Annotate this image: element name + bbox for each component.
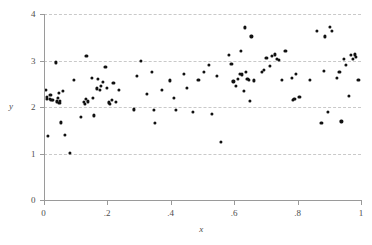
- data-point: [263, 68, 266, 71]
- y-tick-label: 4: [8, 9, 36, 19]
- data-point: [93, 114, 96, 117]
- data-point: [112, 81, 115, 84]
- data-point: [57, 91, 60, 94]
- data-point: [79, 115, 82, 118]
- data-point: [244, 70, 247, 73]
- data-point: [298, 95, 301, 98]
- data-point: [215, 75, 218, 78]
- data-point: [114, 100, 117, 103]
- y-axis-line: [44, 14, 45, 201]
- x-tick-label: .8: [294, 208, 301, 218]
- data-point: [105, 86, 108, 89]
- data-point: [197, 78, 200, 81]
- x-tick-label: 1: [359, 208, 364, 218]
- gridline-y: [44, 154, 362, 155]
- data-point: [330, 29, 333, 32]
- x-tick-mark: [171, 201, 172, 205]
- data-point: [290, 77, 293, 80]
- x-tick-label: .4: [167, 208, 174, 218]
- plot-area: [44, 14, 362, 200]
- data-point: [340, 120, 343, 123]
- data-point: [117, 88, 120, 91]
- data-point: [54, 61, 57, 64]
- data-point: [228, 53, 231, 56]
- data-point: [349, 53, 352, 56]
- data-point: [98, 88, 101, 91]
- x-tick-mark: [107, 201, 108, 205]
- data-point: [328, 25, 331, 28]
- x-tick-label: .6: [231, 208, 238, 218]
- data-point: [175, 108, 178, 111]
- data-point: [284, 49, 287, 52]
- data-point: [150, 70, 153, 73]
- data-point: [236, 78, 239, 81]
- data-point: [338, 70, 341, 73]
- data-point: [232, 80, 235, 83]
- data-point: [241, 73, 244, 76]
- data-point: [72, 78, 75, 81]
- y-tick-label: 1: [8, 149, 36, 159]
- data-point: [185, 86, 188, 89]
- data-point: [323, 35, 326, 38]
- data-point: [281, 78, 284, 81]
- data-point: [357, 78, 360, 81]
- data-point: [248, 99, 251, 102]
- data-point: [152, 108, 155, 111]
- x-tick-mark: [44, 201, 45, 205]
- data-point: [247, 78, 250, 81]
- y-tick-mark: [40, 14, 44, 15]
- data-point: [320, 122, 323, 125]
- y-tick-label: 0: [8, 195, 36, 205]
- data-point: [265, 57, 268, 60]
- x-axis-line: [44, 200, 363, 201]
- data-point: [85, 54, 88, 57]
- gridline-y: [44, 14, 362, 15]
- x-axis-title: x: [199, 224, 203, 234]
- data-point: [86, 100, 89, 103]
- data-point: [234, 84, 237, 87]
- y-tick-mark: [40, 107, 44, 108]
- data-point: [51, 98, 54, 101]
- data-point: [230, 63, 233, 66]
- data-point: [344, 64, 347, 67]
- y-tick-mark: [40, 61, 44, 62]
- data-point: [293, 98, 296, 101]
- x-tick-label: .2: [104, 208, 111, 218]
- data-point: [182, 72, 185, 75]
- data-point: [242, 89, 245, 92]
- x-tick-label: 0: [41, 208, 46, 218]
- data-point: [273, 53, 276, 56]
- data-point: [83, 102, 86, 105]
- data-point: [202, 70, 205, 73]
- data-point: [295, 72, 298, 75]
- data-point: [58, 99, 61, 102]
- data-point: [347, 94, 350, 97]
- data-point: [336, 76, 339, 79]
- y-tick-label: 3: [8, 56, 36, 66]
- data-point: [104, 65, 107, 68]
- data-point: [154, 121, 157, 124]
- data-point: [62, 89, 65, 92]
- data-point: [160, 88, 163, 91]
- data-point: [91, 96, 94, 99]
- y-axis-title: y: [9, 101, 13, 111]
- x-tick-mark: [361, 201, 362, 205]
- data-point: [49, 93, 52, 96]
- data-point: [252, 79, 255, 82]
- data-point: [110, 98, 113, 101]
- data-point: [97, 77, 100, 80]
- data-point: [243, 26, 246, 29]
- data-point: [173, 96, 176, 99]
- gridline-y: [44, 107, 362, 108]
- data-point: [322, 70, 325, 73]
- data-point: [268, 64, 271, 67]
- data-point: [102, 80, 105, 83]
- data-point: [191, 110, 194, 113]
- data-point: [90, 76, 93, 79]
- data-point: [250, 35, 253, 38]
- x-tick-mark: [234, 201, 235, 205]
- data-point: [136, 75, 139, 78]
- data-point: [59, 121, 62, 124]
- data-point: [219, 140, 222, 143]
- data-point: [63, 133, 66, 136]
